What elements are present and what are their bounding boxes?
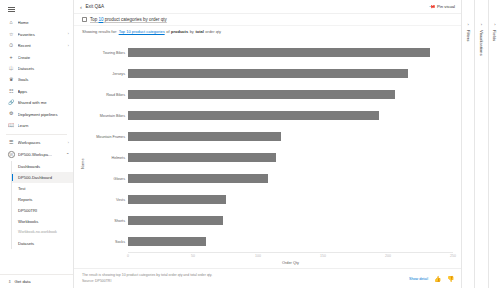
pane-title-fields: Fields bbox=[492, 30, 497, 41]
get-data-button[interactable]: ⇩ Get data bbox=[0, 275, 73, 288]
bar-category-label: Shorts bbox=[86, 219, 128, 223]
bar-category-label: Socks bbox=[86, 240, 128, 244]
qa-topbar: ‹ Exit Q&A 📌 Pin visual bbox=[74, 0, 461, 14]
workspace-circle-icon: W bbox=[8, 151, 15, 158]
bar-track bbox=[128, 151, 453, 165]
sidebar-footer: ⇩ Get data bbox=[0, 274, 73, 288]
plot-column: Touring BikesJerseysRoad BikesMountain B… bbox=[86, 40, 453, 268]
bar[interactable] bbox=[128, 69, 408, 79]
bar-category-label: Gloves bbox=[86, 177, 128, 181]
bar-row[interactable]: Shorts bbox=[86, 214, 453, 228]
sidebar-item-workspaces[interactable]: ☰ Workspaces › bbox=[0, 137, 73, 148]
bar[interactable] bbox=[128, 132, 281, 142]
book-icon: 📖 bbox=[8, 122, 14, 128]
x-axis-tick-label: 150 bbox=[320, 254, 326, 258]
bar[interactable] bbox=[128, 174, 268, 184]
workspace-item-dp500-dashboard[interactable]: DP500-Dashboard bbox=[12, 172, 73, 183]
qa-main-area: ‹ Exit Q&A 📌 Pin visual Top 10 product c… bbox=[74, 0, 461, 288]
bar-row[interactable]: Jerseys bbox=[86, 67, 453, 81]
workspace-item-datasets[interactable]: Datasets bbox=[12, 238, 73, 249]
workspace-item-dp500tri[interactable]: DP500TRI bbox=[12, 205, 73, 216]
x-axis-tick-label: 250 bbox=[450, 254, 456, 258]
sidebar-item-deployment-pipelines[interactable]: ⚙ Deployment pipelines bbox=[0, 108, 73, 119]
sidebar-item-learn[interactable]: 📖 Learn bbox=[0, 120, 73, 131]
sidebar-item-shared-with-me[interactable]: 🔗 Shared with me bbox=[0, 97, 73, 108]
chart-body: Name Touring BikesJerseysRoad BikesMount… bbox=[78, 40, 453, 268]
sidebar-item-label: Favorites bbox=[18, 32, 65, 37]
bar-category-label: Road Bikes bbox=[86, 93, 128, 97]
pin-icon: 📌 bbox=[428, 3, 436, 11]
bar-row[interactable]: Gloves bbox=[86, 172, 453, 186]
x-axis-tick-label: 0 bbox=[127, 254, 129, 258]
thumbs-up-icon[interactable]: 👍 bbox=[434, 276, 441, 282]
sidebar-item-goals[interactable]: ♛ Goals bbox=[0, 74, 73, 85]
sidebar-item-label: Apps bbox=[18, 89, 70, 94]
bar-row[interactable]: Vests bbox=[86, 193, 453, 207]
back-chevron-icon: ‹ bbox=[80, 4, 82, 10]
bar-row[interactable]: Road Bikes bbox=[86, 88, 453, 102]
bar-row[interactable]: Socks bbox=[86, 235, 453, 249]
bar[interactable] bbox=[128, 48, 430, 58]
qa-result-description: The result is showing top 10 product cat… bbox=[82, 273, 212, 284]
bar-row[interactable]: Mountain Bikes bbox=[86, 109, 453, 123]
x-axis-line bbox=[128, 252, 453, 253]
get-data-icon: ⇩ bbox=[8, 279, 11, 284]
share-icon: 🔗 bbox=[8, 100, 14, 106]
qa-feedback-controls: Show detail 👍 👎 bbox=[409, 276, 454, 282]
question-suffix: product categories by order qty bbox=[104, 17, 167, 22]
bar[interactable] bbox=[128, 153, 276, 163]
workspace-item-dashboards[interactable]: Dashboards bbox=[12, 161, 73, 172]
bar-row[interactable]: Touring Bikes bbox=[86, 46, 453, 60]
bar-track bbox=[128, 67, 453, 81]
bar[interactable] bbox=[128, 195, 226, 205]
workspace-item-reports[interactable]: Reports bbox=[12, 194, 73, 205]
pane-title-visualizations: Visualizations bbox=[479, 30, 484, 56]
showing-link[interactable]: Top 10 product categories bbox=[119, 29, 165, 34]
bar[interactable] bbox=[128, 90, 395, 100]
sidebar-item-home[interactable]: ⌂ Home bbox=[0, 17, 73, 28]
sidebar-item-favorites[interactable]: ☆ Favorites › bbox=[0, 29, 73, 40]
bar-track bbox=[128, 172, 453, 186]
home-icon: ⌂ bbox=[8, 20, 14, 26]
chevron-right-icon: › bbox=[68, 32, 69, 36]
chevron-right-icon: › bbox=[68, 44, 69, 48]
show-detail-link[interactable]: Show detail bbox=[409, 277, 428, 281]
exit-qa-button[interactable]: ‹ Exit Q&A bbox=[80, 4, 104, 10]
hamburger-icon[interactable] bbox=[0, 4, 73, 17]
qa-footer: The result is showing top 10 product cat… bbox=[74, 268, 461, 288]
bar[interactable] bbox=[128, 237, 206, 247]
bar[interactable] bbox=[128, 111, 379, 121]
workspace-item-test[interactable]: Test bbox=[12, 183, 73, 194]
sidebar-item-create[interactable]: + Create bbox=[0, 51, 73, 62]
pane-filters[interactable]: › Filters bbox=[462, 0, 474, 288]
pin-visual-button[interactable]: 📌 Pin visual bbox=[429, 4, 455, 9]
bar-track bbox=[128, 130, 453, 144]
exit-qa-label: Exit Q&A bbox=[86, 4, 105, 9]
x-axis-tick-label: 100 bbox=[255, 254, 261, 258]
showing-bold-products: products bbox=[171, 29, 188, 34]
thumbs-down-icon[interactable]: 👎 bbox=[447, 276, 454, 282]
bar[interactable] bbox=[128, 216, 223, 226]
workspace-header[interactable]: W DP500-Workspa… ⌃ bbox=[0, 149, 73, 161]
workspace-name: DP500-Workspa… bbox=[18, 152, 63, 157]
pane-visualizations[interactable]: › Visualizations bbox=[474, 0, 487, 288]
pane-fields[interactable]: › Fields bbox=[488, 0, 501, 288]
get-data-label: Get data bbox=[15, 279, 31, 284]
question-prefix: Top bbox=[90, 17, 99, 22]
sidebar-item-apps[interactable]: ☷ Apps bbox=[0, 86, 73, 97]
qa-question-bar[interactable]: Top 10 product categories by order qty bbox=[74, 14, 461, 26]
workspaces-icon: ☰ bbox=[8, 140, 14, 146]
database-icon: ⎅ bbox=[8, 66, 14, 72]
pane-title-filters: Filters bbox=[466, 30, 471, 41]
bar-track bbox=[128, 46, 453, 60]
bar-row[interactable]: Mountain Frames bbox=[86, 130, 453, 144]
sidebar-item-label: Deployment pipelines bbox=[18, 112, 70, 117]
workspace-item-label: Dashboards bbox=[18, 164, 40, 169]
bar-row[interactable]: Helmets bbox=[86, 151, 453, 165]
bar-chart-visual[interactable]: Name Touring BikesJerseysRoad BikesMount… bbox=[74, 37, 461, 268]
workspace-item-workbooks[interactable]: Workbooks bbox=[12, 216, 73, 227]
trophy-icon: ♛ bbox=[8, 77, 14, 83]
sidebar-item-recent[interactable]: ⏱ Recent › bbox=[0, 40, 73, 51]
sidebar-item-datasets[interactable]: ⎅ Datasets bbox=[0, 63, 73, 74]
chevron-left-icon: › bbox=[467, 22, 468, 27]
